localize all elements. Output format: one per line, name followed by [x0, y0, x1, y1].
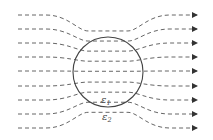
label-epsilon-2: ε2 [102, 111, 112, 124]
label-epsilon-1: ε1 [101, 94, 111, 107]
field-lines [18, 15, 197, 128]
field-line [18, 57, 197, 61]
dielectric-sphere [73, 37, 143, 107]
field-line [18, 43, 197, 51]
field-line [18, 82, 197, 86]
field-lines-diagram: ε1 ε2 [0, 0, 213, 140]
